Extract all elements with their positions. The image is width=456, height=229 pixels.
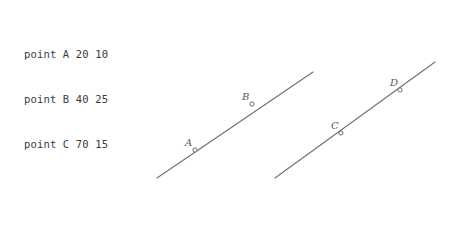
point-label-a: A [184, 137, 192, 148]
point-marker-d [398, 88, 402, 92]
point-label-c: C [331, 120, 339, 131]
geometry-line-p [157, 72, 313, 178]
screenshot-canvas: point A 20 10 point B 40 25 point C 70 1… [0, 0, 456, 229]
geometry-figure: A B C D [0, 0, 456, 229]
point-marker-a [193, 148, 197, 152]
geometry-line-q [275, 62, 435, 178]
point-marker-c [339, 131, 343, 135]
point-label-d: D [389, 77, 398, 88]
point-label-b: B [241, 91, 249, 102]
point-marker-b [250, 102, 254, 106]
